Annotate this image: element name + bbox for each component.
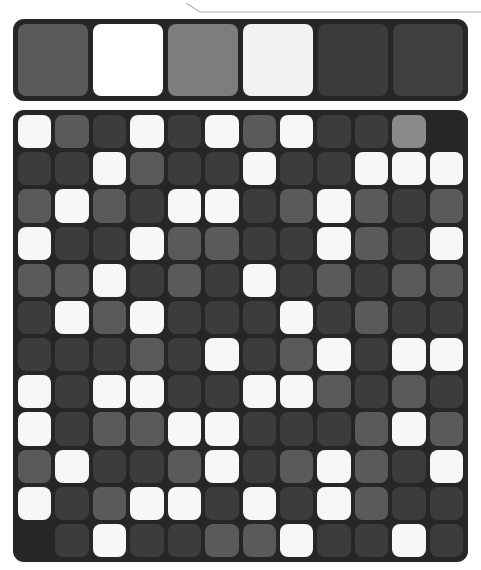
grid-cell-r4-c7[interactable] <box>280 264 313 297</box>
grid-cell-r0-c2[interactable] <box>93 115 126 148</box>
grid-cell-r3-c8[interactable] <box>317 227 350 260</box>
grid-cell-r7-c3[interactable] <box>130 375 163 408</box>
grid-cell-r7-c9[interactable] <box>355 375 388 408</box>
grid-cell-r11-c6[interactable] <box>243 524 276 557</box>
grid-cell-r8-c1[interactable] <box>55 412 88 445</box>
grid-cell-r11-c2[interactable] <box>93 524 126 557</box>
grid-cell-r4-c11[interactable] <box>430 264 463 297</box>
grid-cell-r11-c8[interactable] <box>317 524 350 557</box>
grid-cell-r7-c6[interactable] <box>243 375 276 408</box>
grid-cell-r4-c5[interactable] <box>205 264 238 297</box>
grid-cell-r10-c8[interactable] <box>317 487 350 520</box>
grid-cell-r3-c10[interactable] <box>392 227 425 260</box>
grid-cell-r4-c0[interactable] <box>18 264 51 297</box>
grid-cell-r1-c5[interactable] <box>205 152 238 185</box>
grid-cell-r2-c2[interactable] <box>93 189 126 222</box>
grid-cell-r0-c6[interactable] <box>243 115 276 148</box>
grid-cell-r8-c4[interactable] <box>168 412 201 445</box>
grid-cell-r5-c6[interactable] <box>243 301 276 334</box>
grid-cell-r6-c9[interactable] <box>355 338 388 371</box>
grid-cell-r6-c5[interactable] <box>205 338 238 371</box>
grid-cell-r1-c10[interactable] <box>392 152 425 185</box>
grid-cell-r8-c6[interactable] <box>243 412 276 445</box>
grid-cell-r10-c0[interactable] <box>18 487 51 520</box>
grid-cell-r1-c7[interactable] <box>280 152 313 185</box>
grid-cell-r10-c11[interactable] <box>430 487 463 520</box>
grid-cell-r5-c3[interactable] <box>130 301 163 334</box>
grid-cell-r3-c7[interactable] <box>280 227 313 260</box>
grid-cell-r11-c10[interactable] <box>392 524 425 557</box>
grid-cell-r5-c7[interactable] <box>280 301 313 334</box>
grid-cell-r8-c8[interactable] <box>317 412 350 445</box>
grid-cell-r4-c3[interactable] <box>130 264 163 297</box>
grid-cell-r11-c4[interactable] <box>168 524 201 557</box>
grid-cell-r10-c4[interactable] <box>168 487 201 520</box>
grid-cell-r2-c9[interactable] <box>355 189 388 222</box>
grid-cell-r10-c2[interactable] <box>93 487 126 520</box>
grid-cell-r10-c3[interactable] <box>130 487 163 520</box>
grid-cell-r3-c5[interactable] <box>205 227 238 260</box>
swatch-dark-gray[interactable] <box>318 24 388 96</box>
grid-cell-r2-c6[interactable] <box>243 189 276 222</box>
grid-cell-r6-c6[interactable] <box>243 338 276 371</box>
grid-cell-r10-c6[interactable] <box>243 487 276 520</box>
grid-cell-r3-c1[interactable] <box>55 227 88 260</box>
grid-cell-r3-c6[interactable] <box>243 227 276 260</box>
grid-cell-r5-c0[interactable] <box>18 301 51 334</box>
grid-cell-r6-c4[interactable] <box>168 338 201 371</box>
grid-cell-r6-c8[interactable] <box>317 338 350 371</box>
grid-cell-r11-c1[interactable] <box>55 524 88 557</box>
grid-cell-r7-c0[interactable] <box>18 375 51 408</box>
grid-cell-r7-c7[interactable] <box>280 375 313 408</box>
grid-cell-r9-c8[interactable] <box>317 450 350 483</box>
grid-cell-r10-c1[interactable] <box>55 487 88 520</box>
grid-cell-r3-c11[interactable] <box>430 227 463 260</box>
grid-cell-r9-c6[interactable] <box>243 450 276 483</box>
grid-cell-r9-c3[interactable] <box>130 450 163 483</box>
grid-cell-r2-c8[interactable] <box>317 189 350 222</box>
grid-cell-r5-c8[interactable] <box>317 301 350 334</box>
grid-cell-r6-c0[interactable] <box>18 338 51 371</box>
grid-cell-r0-c3[interactable] <box>130 115 163 148</box>
grid-cell-r7-c2[interactable] <box>93 375 126 408</box>
grid-cell-r0-c4[interactable] <box>168 115 201 148</box>
grid-cell-r1-c2[interactable] <box>93 152 126 185</box>
grid-cell-r9-c11[interactable] <box>430 450 463 483</box>
grid-cell-r0-c7[interactable] <box>280 115 313 148</box>
swatch-light-gray[interactable] <box>168 24 238 96</box>
grid-cell-r8-c11[interactable] <box>430 412 463 445</box>
grid-cell-r7-c10[interactable] <box>392 375 425 408</box>
grid-cell-r9-c10[interactable] <box>392 450 425 483</box>
grid-cell-r6-c2[interactable] <box>93 338 126 371</box>
grid-cell-r11-c11[interactable] <box>430 524 463 557</box>
swatch-white[interactable] <box>93 24 163 96</box>
grid-cell-r3-c4[interactable] <box>168 227 201 260</box>
grid-cell-r9-c5[interactable] <box>205 450 238 483</box>
grid-cell-r2-c4[interactable] <box>168 189 201 222</box>
grid-cell-r2-c1[interactable] <box>55 189 88 222</box>
color-palette-bar[interactable] <box>13 19 468 101</box>
grid-cell-r9-c1[interactable] <box>55 450 88 483</box>
grid-cell-r9-c9[interactable] <box>355 450 388 483</box>
grid-cell-r0-c1[interactable] <box>55 115 88 148</box>
grid-cell-r9-c4[interactable] <box>168 450 201 483</box>
grid-cell-r5-c10[interactable] <box>392 301 425 334</box>
grid-cell-r4-c2[interactable] <box>93 264 126 297</box>
grid-cell-r0-c10[interactable] <box>392 115 425 148</box>
grid-cell-r11-c9[interactable] <box>355 524 388 557</box>
grid-cell-r5-c2[interactable] <box>93 301 126 334</box>
grid-cell-r2-c7[interactable] <box>280 189 313 222</box>
grid-cell-r1-c9[interactable] <box>355 152 388 185</box>
grid-cell-r3-c9[interactable] <box>355 227 388 260</box>
grid-cell-r0-c8[interactable] <box>317 115 350 148</box>
grid-cell-r2-c11[interactable] <box>430 189 463 222</box>
grid-cell-r0-c5[interactable] <box>205 115 238 148</box>
grid-cell-r5-c5[interactable] <box>205 301 238 334</box>
grid-cell-r1-c4[interactable] <box>168 152 201 185</box>
grid-cell-r0-c0[interactable] <box>18 115 51 148</box>
grid-cell-r10-c10[interactable] <box>392 487 425 520</box>
grid-cell-r1-c0[interactable] <box>18 152 51 185</box>
grid-cell-r6-c1[interactable] <box>55 338 88 371</box>
grid-cell-r1-c6[interactable] <box>243 152 276 185</box>
grid-cell-r6-c3[interactable] <box>130 338 163 371</box>
